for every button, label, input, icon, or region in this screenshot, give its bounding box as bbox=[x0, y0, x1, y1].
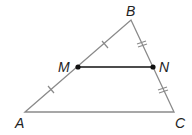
triangle-diagram: B M N A C bbox=[0, 0, 192, 135]
label-n: N bbox=[159, 59, 170, 75]
label-m: M bbox=[58, 59, 70, 75]
label-a: A bbox=[14, 115, 24, 131]
point-n bbox=[150, 64, 155, 69]
point-m bbox=[75, 64, 80, 69]
label-c: C bbox=[175, 115, 186, 131]
label-b: B bbox=[126, 3, 135, 19]
